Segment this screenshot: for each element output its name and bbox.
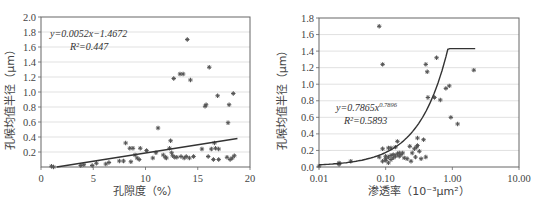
- permeability-scatter-plot: 0.00.20.40.60.81.01.21.41.61.80.010.101.…: [269, 0, 539, 207]
- y-tick-label: 0.2: [23, 147, 36, 158]
- data-point: [395, 139, 399, 143]
- permeability-chart: 0.00.20.40.60.81.01.21.41.61.80.010.101.…: [269, 0, 539, 207]
- y-tick-label: 0.8: [301, 95, 314, 106]
- data-point: [123, 141, 127, 145]
- y-tick-label: 1.6: [23, 42, 36, 53]
- data-point: [409, 159, 413, 163]
- r-squared: R²=0.5893: [343, 115, 387, 126]
- data-point: [137, 157, 141, 161]
- data-point: [151, 156, 155, 160]
- data-point: [434, 56, 438, 60]
- y-tick-label: 0.4: [23, 132, 37, 143]
- trendline: [57, 139, 238, 168]
- y-tick-label: 1.0: [23, 87, 36, 98]
- data-point: [424, 155, 428, 159]
- y-tick-label: 0.0: [301, 162, 314, 173]
- x-axis-title: 渗透率（10⁻³μm²）: [368, 184, 469, 198]
- data-point: [215, 94, 219, 98]
- data-point: [410, 151, 414, 155]
- data-point: [121, 159, 125, 163]
- data-point: [187, 156, 191, 160]
- porosity-chart: 0.20.40.60.81.01.21.41.61.82.005101520y=…: [0, 0, 270, 207]
- y-tick-label: 1.2: [301, 62, 314, 73]
- data-point: [380, 62, 384, 66]
- data-point: [168, 139, 172, 143]
- data-point: [424, 62, 428, 66]
- data-point: [426, 95, 430, 99]
- y-tick-label: 1.6: [301, 29, 314, 40]
- data-point: [419, 157, 423, 161]
- data-point: [175, 155, 179, 159]
- data-point: [417, 149, 421, 153]
- data-point: [211, 157, 215, 161]
- data-point: [216, 147, 220, 151]
- data-point: [107, 160, 111, 164]
- data-point: [90, 163, 94, 167]
- plot-frame: [319, 18, 519, 167]
- data-point: [213, 146, 217, 150]
- data-point: [216, 157, 220, 161]
- y-tick-label: 1.4: [301, 46, 315, 57]
- y-tick-label: 0.8: [23, 102, 36, 113]
- data-point: [380, 147, 384, 151]
- data-point: [172, 76, 176, 80]
- y-tick-label: 0.2: [301, 145, 314, 156]
- data-point: [185, 37, 189, 41]
- y-tick-label: 1.8: [301, 13, 314, 24]
- data-point: [188, 78, 192, 82]
- x-tick-label: 1.00: [443, 173, 461, 184]
- data-point: [455, 122, 459, 126]
- x-tick-label: 15: [193, 173, 204, 184]
- data-point: [117, 159, 121, 163]
- porosity-scatter-plot: 0.20.40.60.81.01.21.41.61.82.005101520y=…: [0, 0, 270, 207]
- data-point: [227, 103, 231, 107]
- r-squared: R²=0.447: [69, 41, 109, 52]
- data-point: [164, 156, 168, 160]
- data-point: [129, 160, 133, 164]
- data-point: [138, 146, 142, 150]
- y-tick-label: 0.4: [301, 128, 315, 139]
- data-point: [209, 147, 213, 151]
- data-points: [49, 37, 236, 169]
- data-point: [200, 147, 204, 151]
- data-point: [413, 155, 417, 159]
- data-point: [472, 68, 476, 72]
- y-tick-label: 1.8: [23, 27, 36, 38]
- data-point: [94, 161, 98, 165]
- y-axis-title: 孔喉均值半径（μm）: [3, 44, 17, 150]
- y-tick-label: 0.6: [301, 112, 314, 123]
- data-point: [226, 121, 230, 125]
- x-tick-label: 0: [38, 173, 43, 184]
- data-point: [415, 143, 419, 147]
- data-point: [415, 136, 419, 140]
- data-point: [191, 154, 195, 158]
- trend-equation: y=0.0052x−1.4672: [49, 28, 127, 39]
- x-tick-label: 20: [245, 173, 256, 184]
- data-point: [377, 24, 381, 28]
- data-point: [408, 144, 412, 148]
- data-point: [232, 154, 236, 158]
- data-point: [438, 98, 442, 102]
- data-point: [204, 103, 208, 107]
- x-tick-label: 0.01: [310, 173, 328, 184]
- data-point: [400, 151, 404, 155]
- data-point: [181, 72, 185, 76]
- x-tick-label: 10.00: [507, 173, 531, 184]
- data-point: [156, 126, 160, 130]
- y-tick-label: 2.0: [23, 12, 36, 23]
- x-tick-label: 5: [91, 173, 96, 184]
- data-point: [207, 65, 211, 69]
- trend-equation: y=0.7865x0.7896: [335, 101, 398, 113]
- data-point: [225, 155, 229, 159]
- data-point: [421, 137, 425, 141]
- data-point: [449, 115, 453, 119]
- y-tick-label: 0.6: [23, 117, 36, 128]
- data-point: [444, 86, 448, 90]
- x-tick-label: 0.10: [376, 173, 394, 184]
- y-tick-label: 1.0: [301, 79, 314, 90]
- data-point: [51, 165, 55, 169]
- x-axis-title: 孔隙度（%）: [113, 184, 178, 198]
- data-point: [425, 70, 429, 74]
- x-tick-label: 10: [140, 173, 151, 184]
- data-point: [386, 161, 390, 165]
